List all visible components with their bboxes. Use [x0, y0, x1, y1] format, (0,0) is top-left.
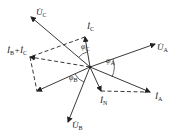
- vector-ia: [90, 67, 150, 92]
- vector-ib-plus-ic: [30, 57, 90, 67]
- label-phi-c: φC: [81, 42, 89, 52]
- label-ic: İC: [86, 21, 94, 32]
- arc-phi-c: [79, 52, 87, 57]
- origin-point: [89, 66, 92, 69]
- label-ua: U̇A: [157, 42, 169, 53]
- label-phi-b: φB: [69, 73, 77, 83]
- label-ub: U̇B: [72, 120, 83, 131]
- vector-ua: [90, 44, 155, 67]
- labels: U̇A U̇C U̇B İC İA İN İB+İC φA φC φB: [6, 7, 169, 131]
- dashed-sum-to-ib: [30, 57, 37, 91]
- label-uc: U̇C: [36, 7, 47, 18]
- label-phi-a: φA: [106, 56, 115, 66]
- label-ib-plus-ic: İB+İC: [6, 45, 27, 56]
- label-in: İN: [99, 95, 108, 106]
- dashed-in-to-ia: [101, 91, 146, 92]
- label-ia: İA: [154, 91, 163, 102]
- phasor-diagram: U̇A U̇C U̇B İC İA İN İB+İC φA φC φB: [0, 0, 173, 135]
- solid-vectors: [31, 17, 155, 122]
